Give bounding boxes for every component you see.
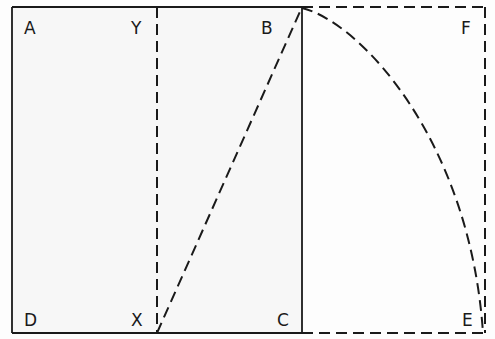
point-label-c: C	[277, 312, 289, 329]
point-label-f: F	[461, 20, 471, 37]
point-label-e: E	[462, 312, 473, 329]
golden-rectangle-diagram: AYBFDXCE	[0, 0, 495, 339]
point-label-b: B	[261, 20, 273, 37]
point-label-x: X	[131, 312, 143, 329]
diagram-canvas	[0, 0, 495, 339]
point-label-a: A	[24, 20, 36, 37]
point-label-y: Y	[131, 20, 141, 37]
point-label-d: D	[24, 312, 37, 329]
